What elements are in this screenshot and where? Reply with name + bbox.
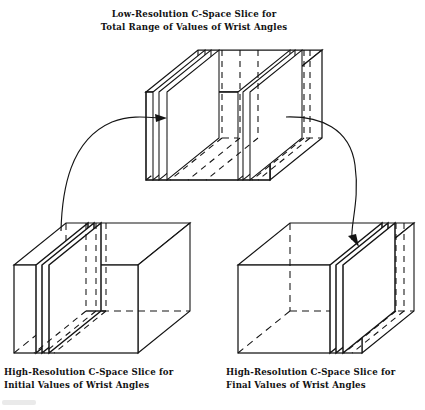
caption-line: Final Values of Wrist Angles bbox=[226, 379, 395, 392]
caption-line: Initial Values of Wrist Angles bbox=[4, 379, 173, 392]
caption-line: High-Resolution C-Space Slice for bbox=[4, 366, 173, 379]
caption-line: Low-Resolution C-Space Slice for bbox=[101, 8, 288, 21]
low-resolution-cspace-box bbox=[146, 50, 322, 180]
caption-line: High-Resolution C-Space Slice for bbox=[226, 366, 395, 379]
caption-high-resolution-initial: High-Resolution C-Space Slice for Initia… bbox=[4, 366, 173, 391]
high-resolution-final-box bbox=[238, 223, 414, 353]
cspace-slice-figure bbox=[0, 0, 425, 410]
scan-artifact bbox=[2, 400, 36, 405]
caption-high-resolution-final: High-Resolution C-Space Slice for Final … bbox=[226, 366, 395, 391]
caption-line: Total Range of Values of Wrist Angles bbox=[101, 21, 288, 34]
caption-low-resolution: Low-Resolution C-Space Slice for Total R… bbox=[101, 8, 288, 33]
high-resolution-initial-box bbox=[14, 223, 190, 353]
